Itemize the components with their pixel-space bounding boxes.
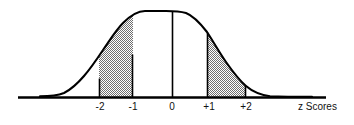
x-tick-label-pos1: +1 — [196, 101, 222, 113]
x-tick-label-pos2: +2 — [233, 101, 259, 113]
x-tick-label-zero: 0 — [159, 101, 185, 113]
x-axis-title: z Scores — [298, 101, 337, 113]
normal-curve-path — [40, 11, 312, 97]
right-shaded-band — [207, 0, 246, 97]
x-tick-label-neg2: -2 — [87, 101, 113, 113]
x-tick-label-neg1: -1 — [120, 101, 146, 113]
bell-curve-figure: -2 -1 0 +1 +2 z Scores — [0, 0, 354, 125]
